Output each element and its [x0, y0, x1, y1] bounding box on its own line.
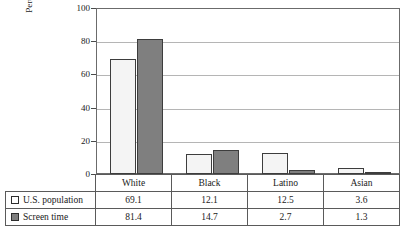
value-cell: 12.1 — [172, 192, 248, 209]
legend-swatch-icon — [11, 196, 19, 204]
y-axis-tick-label: 100 — [60, 2, 90, 14]
legend-label: Screen time — [23, 212, 68, 222]
bar-group — [248, 8, 324, 174]
y-axis-tick-label: 20 — [60, 135, 90, 147]
grouped-bar-chart-figure: Percentage of Total 020406080100 WhiteBl… — [0, 0, 407, 228]
value-cell: 2.7 — [248, 209, 324, 226]
y-axis-tick-label: 40 — [60, 102, 90, 114]
y-axis-tick-label: 60 — [60, 68, 90, 80]
column-header-asian: Asian — [324, 175, 400, 192]
data-table: WhiteBlackLatinoAsianU.S. population69.1… — [5, 174, 400, 226]
table-corner-spacer — [6, 175, 96, 192]
legend-entry-population: U.S. population — [6, 192, 96, 209]
table-header-row: WhiteBlackLatinoAsian — [6, 175, 400, 192]
legend-label: U.S. population — [23, 195, 83, 205]
value-cell: 69.1 — [96, 192, 172, 209]
legend-entry-screen-time: Screen time — [6, 209, 96, 226]
bar-group — [96, 8, 172, 174]
value-cell: 14.7 — [172, 209, 248, 226]
bars-layer — [96, 8, 400, 174]
y-axis-tick-label: 80 — [60, 35, 90, 47]
y-axis-title: Percentage of Total — [22, 0, 36, 32]
column-header-white: White — [96, 175, 172, 192]
bar-group — [172, 8, 248, 174]
legend-swatch-icon — [11, 213, 19, 221]
value-cell: 1.3 — [324, 209, 400, 226]
value-cell: 12.5 — [248, 192, 324, 209]
value-cell: 3.6 — [324, 192, 400, 209]
bar-latino-population — [262, 153, 288, 174]
bar-white-screen-time — [137, 39, 163, 174]
bar-black-screen-time — [213, 150, 239, 174]
column-header-black: Black — [172, 175, 248, 192]
table-row: U.S. population69.112.112.53.6 — [6, 192, 400, 209]
value-cell: 81.4 — [96, 209, 172, 226]
bar-white-population — [110, 59, 136, 174]
y-axis-title-text: Percentage of Total — [22, 0, 36, 32]
column-header-latino: Latino — [248, 175, 324, 192]
bar-black-population — [186, 154, 212, 174]
bar-group — [324, 8, 400, 174]
table-row: Screen time81.414.72.71.3 — [6, 209, 400, 226]
